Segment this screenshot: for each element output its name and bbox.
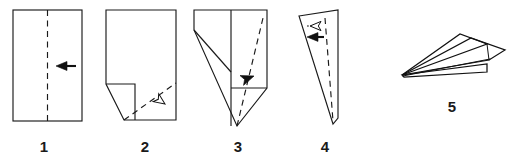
step-3-left-flap-crease (194, 30, 231, 72)
step-2-folded-flap-crease (106, 84, 135, 120)
step-2-label: 2 (141, 138, 149, 155)
step-4-solid-fold-arrow (307, 33, 324, 42)
step-5-figure: 5 (402, 34, 505, 115)
step-2-paper-outline (106, 10, 176, 120)
origami-instruction-diagram: 1 2 (0, 0, 517, 162)
step-4-label: 4 (321, 138, 330, 155)
step-3-figure: 3 (194, 10, 267, 155)
origami-svg-canvas: 1 2 (0, 0, 517, 162)
plane-tail-edge (487, 44, 489, 60)
step-5-label: 5 (448, 98, 456, 115)
step-4-vertical-fold-line (325, 18, 333, 121)
step-4-figure: 4 (299, 10, 338, 155)
step-1-fold-arrow (56, 62, 76, 71)
step-1-label: 1 (40, 138, 48, 155)
step-2-figure: 2 (106, 10, 176, 155)
step-2-fold-arrow (153, 94, 168, 108)
step-1-figure: 1 (13, 10, 82, 155)
step-4-hollow-fold-arrow (307, 21, 321, 30)
step-2-diagonal-fold-line (124, 83, 176, 120)
step-3-label: 3 (234, 138, 242, 155)
